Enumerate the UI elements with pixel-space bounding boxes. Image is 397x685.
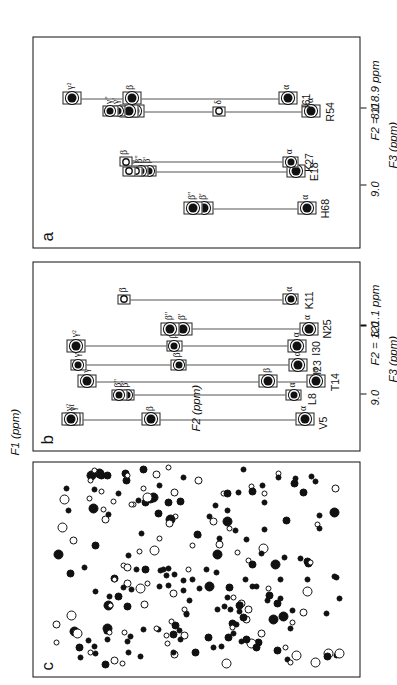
cross-peak <box>291 650 301 660</box>
spin-system-tie-line <box>125 161 290 162</box>
cross-peak <box>101 660 109 668</box>
cross-peak <box>119 660 125 666</box>
peak-marker <box>293 360 302 369</box>
cross-peak <box>196 585 202 591</box>
cross-peak <box>224 594 230 600</box>
axis-title: F3 (ppm) <box>386 335 397 382</box>
cross-peak <box>105 511 111 517</box>
cross-peak <box>310 657 320 667</box>
peak-marker <box>304 324 313 333</box>
cross-peak <box>91 643 97 649</box>
cross-peak <box>110 498 116 504</box>
atom-label: γ² <box>64 82 74 89</box>
cross-peak <box>164 498 172 506</box>
panel-b: b αβγ¹γ²V5αβ'β''L8αβγT14αβγ²I23αβγ²I30αβ… <box>32 261 360 451</box>
residue-label: N25 <box>320 319 332 338</box>
cross-peak <box>244 605 252 613</box>
cross-peak <box>249 583 255 589</box>
cross-peak <box>115 490 121 496</box>
cross-peak <box>232 527 238 533</box>
cross-peak <box>277 595 283 601</box>
atom-label: β <box>117 287 127 292</box>
peak-marker <box>115 391 122 398</box>
cross-peak <box>87 477 93 483</box>
cross-peak <box>107 602 113 608</box>
cross-peak <box>282 644 288 650</box>
residue-label: I23 <box>310 360 322 375</box>
spin-system-tie-line <box>119 394 294 395</box>
cross-peak <box>234 549 240 555</box>
cross-peak <box>181 606 187 612</box>
cross-peak <box>304 576 310 582</box>
cross-peak <box>156 583 162 589</box>
cross-peak <box>77 654 83 660</box>
spin-system-tie-line <box>124 299 290 300</box>
cross-peak <box>264 597 270 603</box>
cross-peak <box>160 566 166 572</box>
spin-system-tie-line <box>71 98 287 99</box>
cross-peak <box>221 603 227 609</box>
cross-peak <box>140 485 146 491</box>
cross-peak <box>65 507 71 513</box>
cross-peak <box>230 594 236 600</box>
axis-title: F1 (ppm) <box>8 408 20 455</box>
cross-peak <box>92 588 98 594</box>
cross-peak <box>248 487 256 495</box>
cross-peak <box>154 509 162 517</box>
cross-peak <box>248 560 256 568</box>
peak-marker <box>287 158 294 165</box>
peak-marker <box>291 166 300 175</box>
cross-peak <box>329 507 339 517</box>
atom-label: γ² <box>63 403 73 410</box>
peak-marker <box>170 342 177 349</box>
cross-peak <box>176 497 184 505</box>
cross-peak <box>204 633 212 641</box>
slice-annotation: F2 = 118.9 ppm <box>368 60 380 140</box>
cross-peak <box>186 597 192 603</box>
atom-label: α <box>280 84 290 89</box>
axis-tick <box>360 393 366 394</box>
cross-peak <box>104 636 110 642</box>
cross-peak <box>331 484 339 492</box>
residue-label: I61 <box>299 93 311 108</box>
residue-label: T14 <box>328 373 340 391</box>
cross-peak <box>91 467 97 473</box>
cross-peak <box>171 621 179 629</box>
cross-peak <box>69 536 77 544</box>
atom-label: β <box>144 406 154 411</box>
cross-peak <box>165 519 173 527</box>
cross-peak <box>149 545 159 555</box>
peak-marker <box>300 414 309 423</box>
peak-marker <box>67 93 76 102</box>
peak-marker <box>175 361 182 368</box>
cross-peak <box>278 611 288 621</box>
atom-label: α <box>286 382 296 387</box>
cross-peak <box>137 653 143 659</box>
atom-label: γ'' <box>103 96 113 104</box>
cross-peak <box>307 559 313 565</box>
axis-tick-label: 8.0 <box>368 321 380 337</box>
figure-root: c b αβγ¹γ²V5αβ'β''L8αβγT14αβγ²I23αβγ²I30… <box>0 0 397 685</box>
cross-peak <box>177 636 183 642</box>
peak-marker <box>290 391 297 398</box>
cross-peak <box>136 548 142 554</box>
cross-peak <box>156 535 162 541</box>
cross-peak <box>152 470 160 478</box>
cross-peak <box>92 650 98 656</box>
cross-peak <box>170 488 178 496</box>
peak-marker <box>287 295 294 302</box>
cross-peak <box>91 541 99 549</box>
cross-peak <box>242 635 250 643</box>
atom-label: β <box>171 352 181 357</box>
cross-peak <box>156 482 162 488</box>
cross-peak <box>120 584 126 590</box>
atom-label: β <box>261 367 271 372</box>
cross-peak <box>237 601 243 607</box>
cross-peak <box>103 471 111 479</box>
cross-peak <box>336 595 342 601</box>
cross-peak <box>235 489 241 495</box>
cross-peak <box>261 526 267 532</box>
peak-marker <box>146 414 155 423</box>
cross-peak <box>239 613 247 621</box>
cross-peak <box>144 580 150 586</box>
